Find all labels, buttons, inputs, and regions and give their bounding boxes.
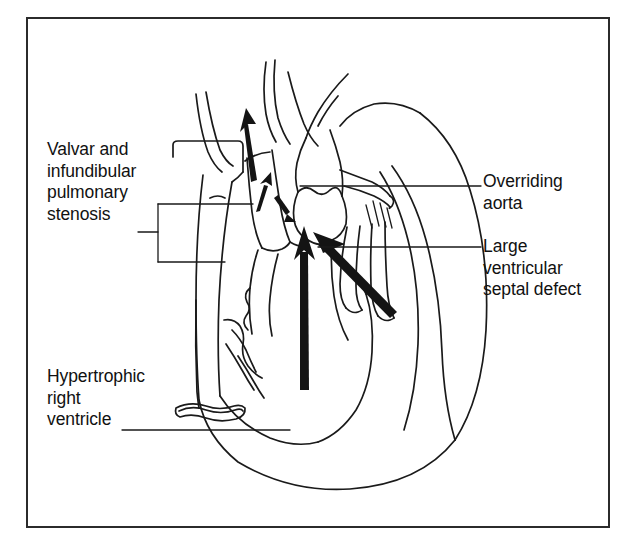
label-hypertrophic-right-ventricle: Hypertrophic right ventricle	[47, 366, 145, 431]
figure-root: Valvar and infundibular pulmonary stenos…	[0, 0, 627, 544]
superior-vena-cava	[173, 141, 243, 182]
right-ventricle-shunt-arrow	[294, 226, 315, 390]
label-large-ventricular-septal-defect: Large ventricular septal defect	[483, 236, 581, 301]
right-atrial-appendage	[340, 170, 394, 208]
overriding-aorta-root	[294, 130, 347, 244]
aortic-arch	[264, 60, 348, 146]
interventricular-septum	[244, 250, 278, 336]
label-valvar-infundibular-pulmonary-stenosis: Valvar and infundibular pulmonary stenos…	[47, 139, 136, 225]
atrial-appendage-notch	[210, 196, 225, 198]
infundibulum-arrow	[256, 172, 272, 212]
pulmonary-artery-trunk	[196, 92, 233, 172]
inferior-vena-cava-opening	[176, 404, 246, 421]
stenosis-short-arrow	[274, 195, 296, 222]
leader-pulmonary-stenosis	[138, 204, 253, 262]
label-overriding-aorta: Overriding aorta	[483, 171, 563, 214]
left-ventricle-shunt-arrow	[313, 232, 397, 318]
tricuspid-valve-leaflets	[224, 320, 264, 398]
